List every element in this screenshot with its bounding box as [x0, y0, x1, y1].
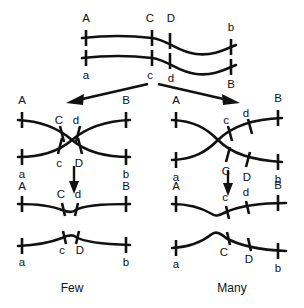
- caption-many: Many: [217, 281, 246, 295]
- branch-arrow-left-shaft: [78, 84, 148, 100]
- few-result-upper-label-C: C: [57, 188, 65, 200]
- many-result-lower-label-D: D: [245, 253, 253, 265]
- parental-upper-label-C: C: [146, 12, 154, 24]
- few-pairing-label-b: b: [123, 168, 129, 180]
- branch-arrow-left-head: [66, 94, 84, 105]
- few-result-lower-label-D: D: [76, 244, 84, 256]
- many-result-lower-tick-D: [248, 238, 251, 251]
- branch-arrow-left: [66, 84, 148, 105]
- many-result-lower-label-a: a: [173, 258, 180, 270]
- many-result-upper-tick-c: [226, 206, 229, 219]
- few-result-lower-label-a: a: [19, 256, 26, 268]
- parental-lower-label-a: a: [83, 69, 90, 81]
- many-pairing-label-B: B: [274, 92, 282, 104]
- few-pairing-label-A: A: [18, 94, 26, 106]
- branch-arrow-right-shaft: [158, 84, 228, 100]
- parental-upper-label-D: D: [167, 12, 175, 24]
- parental-lower-strand: [82, 56, 236, 74]
- few-pairing-label-D: D: [75, 157, 83, 169]
- parental-lower-label-c: c: [147, 69, 153, 81]
- parental-upper-strand: [82, 36, 236, 54]
- many-result-upper-tick-d: [246, 201, 249, 214]
- parental-lower-label-d: d: [168, 72, 174, 84]
- figure-canvas: A C D b a c d B: [0, 0, 304, 308]
- few-result-lower-label-b: b: [123, 256, 129, 268]
- caption-few: Few: [61, 281, 84, 295]
- many-pairing-label-c: c: [223, 114, 229, 126]
- many-pairing-label-D: D: [243, 171, 251, 183]
- many-result-upper-label-B: B: [274, 179, 282, 191]
- branch-arrow-right-head: [222, 94, 240, 105]
- few-result-upper-label-B: B: [122, 180, 130, 192]
- few-pairing-label-c: c: [56, 157, 62, 169]
- few-result-upper-label-A: A: [18, 180, 26, 192]
- few-pairing-label-d: d: [73, 114, 79, 126]
- crossover-figure: A C D b a c d B: [0, 0, 304, 308]
- few-pairing-label-a: a: [19, 168, 26, 180]
- few-result-lower-label-c: c: [59, 244, 65, 256]
- many-result-upper-label-d: d: [243, 186, 249, 198]
- few-result-lower-tick-c: [63, 231, 66, 244]
- few-pairing-label-B: B: [122, 94, 130, 106]
- few-result-upper-tick-C: [62, 203, 65, 216]
- few-result-upper-strand: [18, 204, 130, 212]
- few-result-lower-tick-D: [76, 231, 79, 244]
- few-result-upper-tick-d: [75, 203, 78, 216]
- many-result-lower-tick-C: [227, 232, 230, 245]
- few-result-lower-strand: [18, 235, 130, 246]
- many-result-lower-label-b: b: [275, 262, 281, 274]
- many-result-upper-label-c: c: [222, 191, 228, 203]
- few-result-upper-label-d: d: [75, 188, 81, 200]
- few-crossover-result: A B C d a b c D: [18, 180, 130, 268]
- few-pairing-label-C: C: [55, 114, 63, 126]
- many-pairing-tick-c: [228, 126, 232, 141]
- parental-lower-label-B: B: [227, 78, 235, 90]
- many-pairing-tick-D: [246, 152, 250, 167]
- many-pairing-label-A: A: [172, 94, 180, 106]
- many-result-upper-label-A: A: [172, 180, 180, 192]
- many-result-lower-label-C: C: [220, 246, 228, 258]
- parental-chromatids: A C D b a c d B: [82, 12, 236, 90]
- parental-upper-label-b: b: [228, 21, 234, 33]
- parental-upper-label-A: A: [82, 12, 90, 24]
- many-pairing-label-d: d: [243, 107, 249, 119]
